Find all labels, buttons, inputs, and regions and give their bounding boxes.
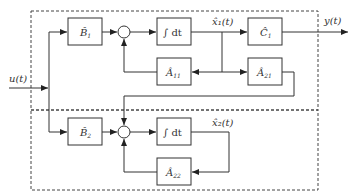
svg-text:∫ dt: ∫ dt [163,127,182,138]
a11-feedback-wire [124,39,157,72]
sum-junction-2 [118,126,130,138]
state-2-feedback-wire [191,132,229,172]
block-diagram: u(t) B̂1 ∫ dt x̂₁(t) Ĉ1 y(t) Â11 Â21 B̂2 [0,0,356,196]
a22-feedback-wire [124,139,157,172]
state-1-label: x̂₁(t) [212,16,234,27]
state-2-label: x̂₂(t) [212,117,234,128]
input-signal-label: u(t) [9,73,27,84]
svg-text:∫ dt: ∫ dt [163,27,182,38]
b1-block: B̂1 [68,18,102,45]
c1-block: Ĉ1 [248,18,282,45]
sum-junction-1 [118,26,130,38]
b2-block: B̂2 [68,118,102,145]
a22-block: Â22 [157,158,191,185]
a11-block: Â11 [157,58,191,85]
output-signal-label: y(t) [323,15,342,26]
integrator-1-block: ∫ dt [157,18,191,45]
integrator-2-block: ∫ dt [157,118,191,145]
a21-block: Â21 [248,58,282,85]
